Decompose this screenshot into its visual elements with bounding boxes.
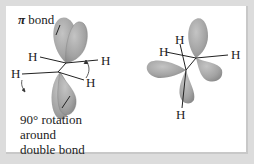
left-h-lower-right: H [86,75,95,91]
right-h-top: H [175,32,184,48]
right-p-orbital-lobes [147,18,223,103]
rotation-caption: 90° rotation around double bond [20,112,110,157]
right-h-bottom: H [176,107,185,123]
left-h-upper-left: H [28,49,37,65]
caption-line-2: around [20,127,110,142]
pi-bond-label: π bond [18,12,54,27]
caption-line-3: double bond [20,142,110,157]
left-h-lower-left: H [11,66,20,82]
caption-line-1: 90° rotation [20,112,110,127]
right-h-right: H [231,47,240,63]
right-h-left: H [159,44,168,60]
left-h-upper-right: H [101,53,110,69]
